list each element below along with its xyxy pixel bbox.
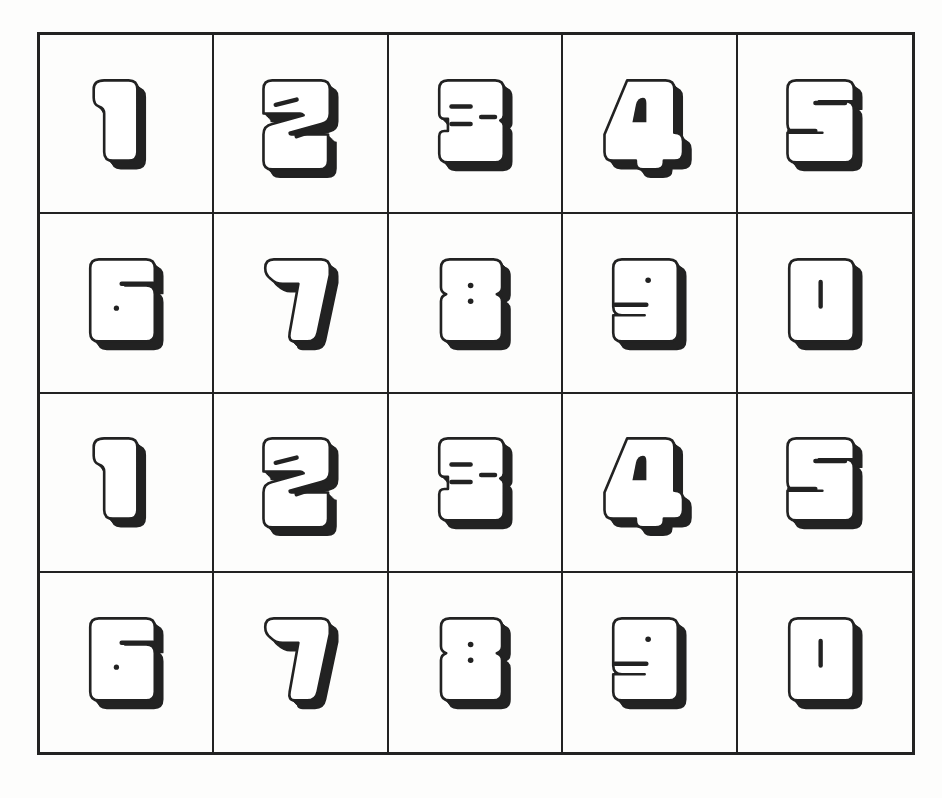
number-card-6: 6: [40, 214, 214, 393]
number-card-6: 6: [40, 573, 214, 752]
number-card-4: 4: [563, 35, 737, 214]
number-card-grid: 12345678901234567890: [37, 32, 915, 755]
bubble-digit-0-icon: [777, 610, 873, 714]
bubble-digit-3-icon: [427, 430, 523, 534]
bubble-digit-2-icon: [253, 430, 349, 534]
number-card-9: 9: [563, 214, 737, 393]
number-card-9: 9: [563, 573, 737, 752]
bubble-digit-1-icon: [78, 72, 174, 176]
bubble-digit-2-icon: [253, 72, 349, 176]
bubble-digit-5-icon: [777, 430, 873, 534]
number-card-2: 2: [214, 394, 388, 573]
number-card-5: 5: [738, 35, 912, 214]
number-card-3: 3: [389, 35, 563, 214]
bubble-digit-8-icon: [427, 251, 523, 355]
number-card-5: 5: [738, 394, 912, 573]
number-card-8: 8: [389, 573, 563, 752]
bubble-digit-1-icon: [78, 430, 174, 534]
bubble-digit-8-icon: [427, 610, 523, 714]
bubble-digit-7-icon: [253, 251, 349, 355]
number-card-0: 0: [738, 573, 912, 752]
bubble-digit-7-icon: [253, 610, 349, 714]
bubble-digit-3-icon: [427, 72, 523, 176]
bubble-digit-9-icon: [601, 610, 697, 714]
worksheet: 12345678901234567890: [0, 0, 942, 798]
number-card-1: 1: [40, 35, 214, 214]
bubble-digit-4-icon: [601, 430, 697, 534]
number-card-7: 7: [214, 214, 388, 393]
number-card-3: 3: [389, 394, 563, 573]
number-card-7: 7: [214, 573, 388, 752]
number-card-0: 0: [738, 214, 912, 393]
bubble-digit-6-icon: [78, 610, 174, 714]
number-card-1: 1: [40, 394, 214, 573]
bubble-digit-9-icon: [601, 251, 697, 355]
number-card-8: 8: [389, 214, 563, 393]
bubble-digit-6-icon: [78, 251, 174, 355]
bubble-digit-0-icon: [777, 251, 873, 355]
bubble-digit-5-icon: [777, 72, 873, 176]
number-card-2: 2: [214, 35, 388, 214]
number-card-4: 4: [563, 394, 737, 573]
bubble-digit-4-icon: [601, 72, 697, 176]
